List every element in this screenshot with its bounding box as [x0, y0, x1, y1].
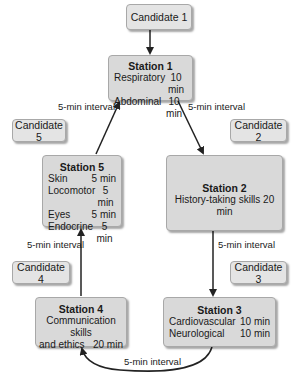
- exam-time: 10 min: [161, 96, 187, 120]
- candidate-4: Candidate 4: [12, 261, 70, 284]
- exam-row: Abdominal10 min: [109, 96, 192, 120]
- station-4: Station 4 Communication skills and ethic…: [35, 297, 127, 347]
- exam-time: 5 min: [93, 221, 116, 245]
- candidate-label: Candidate 4: [13, 261, 69, 285]
- station-5: Station 5 Skin5 min Locomotor5 min Eyes5…: [42, 155, 122, 227]
- station-title: Station 4: [36, 303, 126, 315]
- exam-time: 10 min: [240, 328, 270, 340]
- candidate-1: Candidate 1: [126, 4, 192, 30]
- station-1: Station 1 Respiratory10 min Abdominal10 …: [108, 55, 193, 101]
- exam-time: 10 min: [165, 72, 187, 96]
- interval-label-s1-s2: 5-min interval: [188, 101, 245, 112]
- station-2: Station 2 History-taking skills 20 min: [166, 155, 283, 231]
- station-3: Station 3 Cardiovascular10 min Neurologi…: [163, 297, 276, 347]
- candidate-label: Candidate 3: [231, 261, 286, 285]
- station-title: Station 5: [43, 161, 121, 173]
- exam-name: Skin: [48, 173, 67, 185]
- exam-name: Neurological: [169, 328, 225, 340]
- exam-time: 5 min: [92, 173, 116, 185]
- interval-label-s5-s1: 5-min interval: [58, 101, 115, 112]
- exam-row: Cardiovascular10 min: [164, 316, 275, 328]
- exam-name: Eyes: [48, 209, 70, 221]
- interval-label-s4-s5: 5-min interval: [27, 239, 84, 250]
- exam-name: Locomotor: [48, 185, 95, 209]
- candidate-label: Candidate 2: [231, 119, 286, 143]
- interval-label-s2-s3: 5-min interval: [218, 239, 275, 250]
- exam-name: Abdominal: [114, 96, 161, 120]
- exam-row: Skin5 min: [43, 173, 121, 185]
- station-description: History-taking skills 20 min: [167, 194, 282, 218]
- candidate-5: Candidate 5: [12, 119, 66, 142]
- candidate-label: Candidate 5: [13, 119, 65, 143]
- station-description: Communication skills: [36, 315, 126, 339]
- candidate-label: Candidate 1: [131, 11, 188, 23]
- station-title: Station 3: [164, 304, 275, 316]
- interval-label-s3-s4: 5-min interval: [124, 356, 181, 367]
- candidate-3: Candidate 3: [230, 261, 287, 284]
- station-title: Station 1: [109, 60, 192, 72]
- exam-time: 5 min: [95, 185, 116, 209]
- candidate-2: Candidate 2: [230, 119, 287, 142]
- exam-row: Locomotor5 min: [43, 185, 121, 209]
- station-description: and ethics 20 min: [36, 339, 126, 351]
- exam-row: Respiratory10 min: [109, 72, 192, 96]
- exam-time: 5 min: [92, 209, 116, 221]
- exam-row: Neurological10 min: [164, 328, 275, 340]
- exam-name: Respiratory: [114, 72, 165, 96]
- exam-row: Eyes5 min: [43, 209, 121, 221]
- station-title: Station 2: [167, 182, 282, 194]
- exam-time: 10 min: [240, 316, 270, 328]
- exam-name: Cardiovascular: [169, 316, 236, 328]
